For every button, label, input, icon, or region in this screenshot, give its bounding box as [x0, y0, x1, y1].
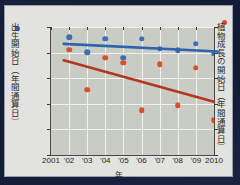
- chart-figure: 出生開始日（年間通算日） 植物成長の開始日（年間通算日） 11011012012…: [4, 5, 233, 177]
- x-axis-tick-label: '09: [191, 157, 201, 165]
- x-axis-tick-mark: [69, 27, 70, 30]
- x-axis-tick-label: '02: [64, 157, 74, 165]
- x-axis-tick-mark: [160, 27, 161, 30]
- x-axis-tick-label: '06: [136, 157, 146, 165]
- y-axis-tick-mark: [47, 53, 51, 54]
- trendlines: [51, 27, 214, 155]
- x-axis-tick-mark: [178, 27, 179, 30]
- y-axis-tick-mark: [47, 129, 51, 130]
- y-axis-tick-label: 150: [0, 48, 1, 57]
- y-axis-right-label: 植物成長の開始日（年間通算日）: [215, 23, 231, 165]
- y-axis-left-label: 出生開始日（年間通算日）: [9, 23, 25, 156]
- x-axis-tick-label: '03: [82, 157, 92, 165]
- x-axis-label: 年: [4, 169, 233, 180]
- x-axis-tick-mark: [105, 27, 106, 30]
- trendline: [64, 60, 214, 101]
- x-axis-tick-mark: [142, 27, 143, 30]
- x-axis-tick-mark: [214, 27, 215, 30]
- y-axis-tick-mark: [47, 104, 51, 105]
- x-axis-tick-mark: [196, 27, 197, 30]
- y-axis-tick-mark: [214, 78, 218, 79]
- y-axis-tick-mark: [214, 129, 218, 130]
- x-axis-tick-label: '05: [118, 157, 128, 165]
- y-axis-tick-label: 130: [0, 99, 1, 108]
- x-axis-tick-mark: [123, 27, 124, 30]
- y-axis-tick-label: 160: [0, 23, 1, 32]
- x-axis-tick-label: 2010: [205, 157, 223, 165]
- x-axis-tick-label: '04: [100, 157, 110, 165]
- y-axis-tick-mark: [214, 104, 218, 105]
- y-axis-tick-mark: [214, 53, 218, 54]
- x-axis-tick-label: '07: [154, 157, 164, 165]
- x-axis-tick-mark: [87, 27, 88, 30]
- y-axis-tick-label: 120: [0, 125, 1, 134]
- plot-area: 1101101201201301301401401501501601602001…: [50, 27, 215, 156]
- trendline: [64, 44, 218, 52]
- x-axis-tick-label: 2001: [42, 157, 60, 165]
- y-axis-tick-label: 140: [0, 74, 1, 83]
- x-axis-tick-mark: [51, 27, 52, 30]
- y-axis-tick-mark: [47, 78, 51, 79]
- y-axis-tick-label: 110: [0, 151, 1, 160]
- x-axis-tick-label: '08: [173, 157, 183, 165]
- figure-root: 出生開始日（年間通算日） 植物成長の開始日（年間通算日） 11011012012…: [0, 0, 240, 185]
